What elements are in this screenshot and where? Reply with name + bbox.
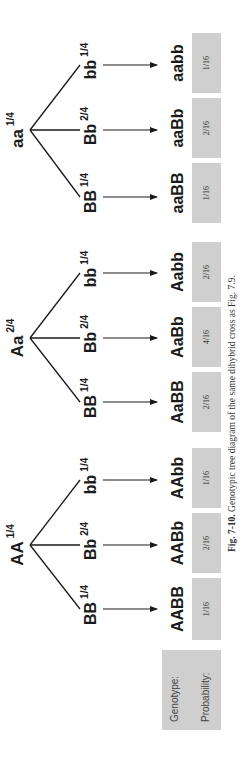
genotype-result: AAbb	[169, 457, 187, 500]
child-probability: 1/4	[79, 173, 90, 187]
child-probability: 2/4	[79, 522, 90, 536]
child-genotype: BB	[82, 602, 99, 625]
caption-text: Genotypic tree diagram of the same dihyb…	[227, 275, 237, 512]
probability-box: 2/16	[192, 513, 221, 573]
child-probability: 1/4	[79, 585, 90, 599]
child-genotype: BB	[82, 190, 99, 213]
child-probability: 1/4	[79, 43, 90, 57]
genotype-result: AaBb	[169, 316, 187, 358]
legend-box: Genotype: Probability:	[162, 650, 221, 730]
child-label: bb1/4	[82, 43, 100, 79]
child-genotype: Bb	[82, 124, 99, 145]
legend-genotype-label: Genotype:	[169, 676, 180, 722]
probability-box: 1/16	[192, 578, 221, 640]
probability-box: 1/16	[192, 163, 221, 223]
genotype-result: AaBB	[169, 380, 187, 424]
probability-box: 1/16	[192, 448, 221, 508]
child-genotype: Bb	[82, 539, 99, 560]
child-genotype: bb	[82, 268, 99, 288]
genotype-result: AABb	[169, 521, 187, 565]
genotype-result: aaBB	[169, 173, 187, 214]
parent-genotype: aa	[8, 129, 27, 148]
genotype-result: aaBb	[169, 108, 187, 147]
parent-label-AA: AA1/4	[8, 524, 28, 565]
probability-box: 2/16	[192, 98, 221, 158]
parent-probability: 1/4	[5, 112, 16, 126]
genotypic-tree-diagram: AA1/4 Aa2/4 aa1/4 BB1/4 Bb2/4 bb1/4 BB1/…	[0, 0, 244, 777]
child-label: BB1/4	[82, 378, 100, 418]
child-probability: 2/4	[79, 315, 90, 329]
child-label: Bb2/4	[82, 315, 100, 353]
parent-genotype: AA	[8, 541, 27, 566]
parent-label-Aa: Aa2/4	[8, 319, 28, 358]
branch-lines-Aa	[30, 273, 80, 402]
child-genotype: bb	[82, 60, 99, 80]
genotype-result: AABB	[169, 586, 187, 632]
child-genotype: bb	[82, 475, 99, 495]
child-label: BB1/4	[82, 585, 100, 625]
child-label: Bb2/4	[82, 522, 100, 560]
child-label: bb1/4	[82, 251, 100, 287]
parent-label-aa: aa1/4	[8, 112, 28, 148]
branch-lines-aa	[30, 65, 80, 197]
child-probability: 1/4	[79, 378, 90, 392]
parent-probability: 2/4	[5, 319, 16, 333]
genotype-result: Aabb	[169, 252, 187, 292]
probability-box: 2/16	[192, 242, 221, 302]
child-genotype: BB	[82, 395, 99, 418]
child-label: Bb2/4	[82, 107, 100, 145]
genotype-result: aabb	[169, 44, 187, 81]
parent-genotype: Aa	[8, 336, 27, 358]
branch-lines-AA	[30, 480, 80, 609]
probability-box: 2/16	[192, 372, 221, 432]
child-label: BB1/4	[82, 173, 100, 213]
child-probability: 1/4	[79, 251, 90, 265]
caption-label: Fig. 7-10.	[227, 514, 237, 552]
arrows	[103, 65, 157, 609]
probability-box: 1/16	[192, 33, 221, 93]
child-probability: 1/4	[79, 458, 90, 472]
probability-box: 4/16	[192, 307, 221, 367]
figure-caption: Fig. 7-10. Genotypic tree diagram of the…	[227, 275, 237, 552]
child-probability: 2/4	[79, 107, 90, 121]
parent-probability: 1/4	[5, 524, 16, 538]
child-label: bb1/4	[82, 458, 100, 494]
legend-probability-label: Probability:	[200, 673, 211, 722]
child-genotype: Bb	[82, 332, 99, 353]
